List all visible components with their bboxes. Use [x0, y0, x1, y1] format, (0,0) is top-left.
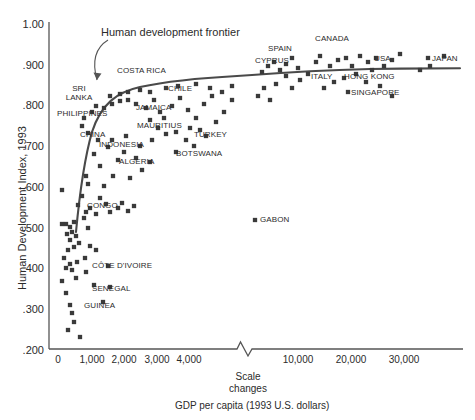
data-point-marker: [418, 68, 422, 72]
point-label-chile: CHILE: [168, 85, 192, 93]
data-point-marker: [262, 86, 266, 90]
data-point-marker: [202, 102, 206, 106]
data-point-marker: [78, 335, 82, 339]
data-point-marker: [284, 74, 288, 78]
data-point-marker: [174, 130, 178, 134]
data-point-marker: [222, 110, 226, 114]
data-point-marker: [72, 320, 76, 324]
data-point-marker: [188, 126, 192, 130]
data-point-marker: [208, 86, 212, 90]
scale-break-caption-line2: changes: [208, 383, 288, 395]
data-point-marker: [230, 98, 234, 102]
x-tick-0: 0: [43, 355, 73, 365]
data-point-marker: [194, 82, 198, 86]
data-point-marker: [84, 210, 88, 214]
data-point-marker: [70, 311, 74, 315]
data-point-marker: [88, 244, 92, 248]
data-point-marker: [398, 52, 402, 56]
data-point-marker: [94, 212, 98, 216]
data-point-marker: [108, 210, 112, 214]
scatter-chart: 1.00 .900 .800 .700 .600 .500 .400 .300 …: [0, 0, 475, 420]
data-point-marker: [256, 94, 260, 98]
point-label-turkey: TURKEY: [194, 131, 227, 139]
data-point-marker: [72, 245, 76, 249]
x-tick-20000: 20,000: [329, 355, 373, 365]
point-label-spain: SPAIN: [268, 45, 292, 53]
data-point-marker: [274, 82, 278, 86]
data-point-marker: [318, 54, 322, 58]
data-point-marker: [306, 72, 310, 76]
data-point-marker: [260, 70, 264, 74]
point-label-cote-divoire: CÔTE D'IVOIRE: [92, 262, 152, 270]
point-label-italy: ITALY: [311, 73, 333, 81]
data-point-marker: [314, 60, 318, 64]
data-point-marker: [366, 60, 370, 64]
point-label-lanka: LANKA: [66, 93, 93, 102]
data-point-marker: [86, 226, 90, 230]
data-point-marker: [120, 201, 124, 205]
y-tick-0.200: .200: [4, 345, 44, 356]
data-point-marker: [111, 174, 115, 178]
data-point-marker: [126, 90, 130, 94]
data-point-marker: [86, 182, 90, 186]
data-point-marker: [336, 58, 340, 62]
data-point-marker: [140, 168, 144, 172]
data-point-marker: [80, 194, 84, 198]
data-point-marker: [192, 144, 196, 148]
data-point-marker: [290, 86, 294, 90]
data-point-marker: [66, 328, 70, 332]
point-label-jamaica: JAMAICA: [136, 104, 171, 112]
data-point-marker: [126, 209, 130, 213]
data-point-marker: [98, 196, 102, 200]
data-point-marker: [138, 88, 142, 92]
data-point-marker: [278, 68, 282, 72]
y-tick-0.900: .900: [4, 60, 44, 71]
data-point-marker: [214, 120, 218, 124]
y-tick-0.300: .300: [4, 304, 44, 315]
data-point-marker: [80, 124, 84, 128]
data-point-marker: [296, 66, 300, 70]
point-label-china: CHINA: [80, 131, 105, 139]
data-point-marker: [358, 54, 362, 58]
x-tick-4000: 4,000: [169, 355, 209, 365]
data-point-marker: [164, 132, 168, 136]
point-label-usa: USA: [374, 55, 391, 63]
data-point-marker: [148, 90, 152, 94]
scale-break-caption-line1: Scale: [208, 371, 288, 383]
data-point-marker: [68, 225, 72, 229]
data-point-marker: [178, 96, 182, 100]
data-point-marker: [64, 222, 68, 226]
frontier-annotation-label: Human development frontier: [101, 27, 240, 38]
data-point-marker: [64, 266, 68, 270]
data-point-marker: [83, 256, 87, 260]
data-point-marker: [122, 150, 126, 154]
point-label-sri-lanka: SRI LANKA: [62, 84, 96, 102]
data-point-marker: [268, 98, 272, 102]
data-point-marker: [65, 232, 69, 236]
data-point-marker: [84, 174, 88, 178]
data-point-marker: [322, 86, 326, 90]
data-point-marker: [426, 56, 430, 60]
point-label-japan: JAPAN: [432, 55, 458, 63]
data-point-marker: [220, 90, 224, 94]
x-tick-30000: 30,000: [382, 355, 426, 365]
point-label-guinea: GUINEA: [84, 302, 115, 310]
data-point-marker: [77, 241, 81, 245]
data-point-marker: [132, 204, 136, 208]
point-label-congo: CONGO: [87, 202, 118, 210]
point-label-cyprus: CYPRUS: [255, 57, 289, 65]
point-label-hong-kong: HONG KONG: [344, 73, 395, 81]
data-point-marker: [68, 303, 72, 307]
data-point-marker: [74, 276, 78, 280]
data-point-marker: [84, 270, 88, 274]
point-label-canada: CANADA: [315, 35, 349, 43]
data-point-marker: [118, 92, 122, 96]
data-point-marker: [92, 152, 96, 156]
y-tick-0.800: .800: [4, 100, 44, 111]
x-tick-10000: 10,000: [276, 355, 320, 365]
data-point-marker: [82, 216, 86, 220]
data-point-marker: [328, 64, 332, 68]
data-point-marker: [60, 222, 64, 226]
y-tick-1.00: 1.00: [4, 19, 44, 30]
point-label-sri: SRI: [72, 84, 86, 93]
